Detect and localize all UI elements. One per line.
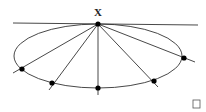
- points: [19, 55, 186, 90]
- ellipse-diagram: X: [0, 0, 206, 112]
- rays: [13, 24, 195, 95]
- ray-0: [13, 24, 98, 73]
- end-of-proof-square: [193, 100, 200, 108]
- ellipse-point-0: [19, 66, 24, 71]
- ellipse-point-4: [181, 55, 186, 60]
- ellipse-point-2: [95, 85, 100, 90]
- ellipse-point-3: [151, 78, 156, 83]
- ellipse-point-1: [49, 80, 54, 85]
- ray-3: [98, 24, 158, 87]
- apex-point: [95, 21, 100, 26]
- ray-1: [49, 24, 98, 90]
- point-label-x: X: [94, 6, 102, 18]
